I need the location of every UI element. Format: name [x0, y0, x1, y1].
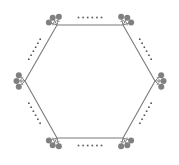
tree-cluster-top-left: [46, 14, 62, 26]
tree-icon: [118, 138, 124, 149]
hexagon-outline: [25, 25, 155, 138]
tree-cluster-right: [155, 72, 167, 90]
tree-cluster-bottom-left: [46, 137, 62, 149]
tree-icon: [118, 14, 124, 25]
tree-icon: [56, 14, 62, 25]
hexagon-diagram: [0, 0, 179, 165]
tree-icon: [56, 138, 62, 149]
side-dots-bottom-right-to-bottom-left: [78, 145, 103, 147]
side-dots-top-left-to-top-right: [78, 17, 103, 19]
tree-cluster-left: [14, 72, 26, 90]
tree-cluster-top-right: [118, 14, 134, 26]
tree-cluster-bottom-right: [118, 137, 134, 149]
